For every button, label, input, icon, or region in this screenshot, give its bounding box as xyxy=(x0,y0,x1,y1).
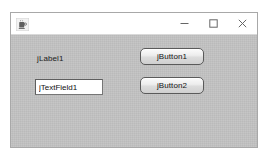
jlabel1-label: jLabel1 xyxy=(37,54,64,63)
jbutton2-button[interactable]: jButton2 xyxy=(140,77,204,94)
maximize-icon xyxy=(208,18,219,29)
application-window: jLabel1 jButton1 jButton2 xyxy=(10,12,258,148)
content-panel: jLabel1 jButton1 jButton2 xyxy=(11,35,257,147)
java-coffee-cup-icon xyxy=(16,17,29,30)
title-bar[interactable] xyxy=(11,13,257,35)
maximize-button[interactable] xyxy=(199,13,228,34)
jtextfield1-input[interactable] xyxy=(35,79,103,95)
minimize-button[interactable] xyxy=(170,13,199,34)
close-button[interactable] xyxy=(228,13,257,34)
jbutton1-button[interactable]: jButton1 xyxy=(140,48,204,65)
close-icon xyxy=(237,18,248,29)
minimize-icon xyxy=(179,18,190,29)
